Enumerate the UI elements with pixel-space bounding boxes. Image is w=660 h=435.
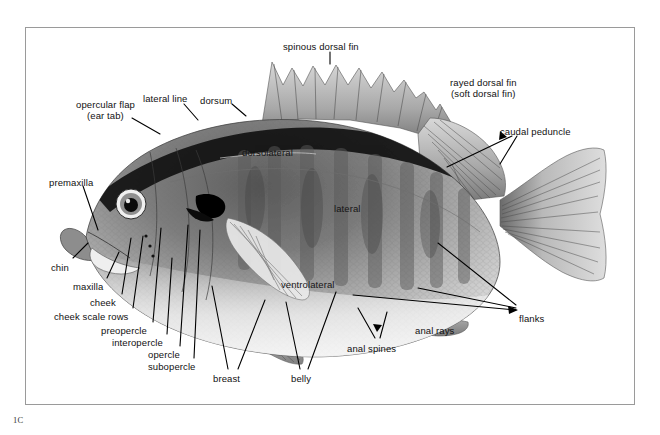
label-ventrolateral: ventrolateral xyxy=(281,279,335,290)
figure-root: spinous dorsal finrayed dorsal fin (soft… xyxy=(0,0,660,435)
label-premaxilla: premaxilla xyxy=(49,177,93,188)
label-opercular-flap: opercular flap (ear tab) xyxy=(76,99,135,121)
label-breast: breast xyxy=(213,373,240,384)
label-lateral-line: lateral line xyxy=(143,93,188,104)
label-interopercle: interopercle xyxy=(112,337,163,348)
label-dorsum: dorsum xyxy=(200,95,232,106)
label-dorsolateral: dorsolateral xyxy=(242,147,293,158)
label-opercle: opercle xyxy=(148,349,180,360)
plate-id: 1C xyxy=(13,415,24,425)
label-maxilla: maxilla xyxy=(73,281,103,292)
label-cheek: cheek xyxy=(90,297,116,308)
label-cheek-scale-rows: cheek scale rows xyxy=(54,311,128,322)
label-subopercle: subopercle xyxy=(148,361,195,372)
label-rayed-dorsal-fin: rayed dorsal fin (soft dorsal fin) xyxy=(450,77,517,99)
label-lateral: lateral xyxy=(334,203,361,214)
label-flanks: flanks xyxy=(519,313,544,324)
label-belly: belly xyxy=(291,373,311,384)
label-layer: spinous dorsal finrayed dorsal fin (soft… xyxy=(0,0,660,435)
label-anal-rays: anal rays xyxy=(415,325,454,336)
label-spinous-dorsal-fin: spinous dorsal fin xyxy=(283,41,359,52)
label-caudal-peduncle: caudal peduncle xyxy=(500,126,571,137)
label-preopercle: preopercle xyxy=(101,325,147,336)
label-chin: chin xyxy=(51,262,69,273)
label-anal-spines: anal spines xyxy=(347,343,396,354)
